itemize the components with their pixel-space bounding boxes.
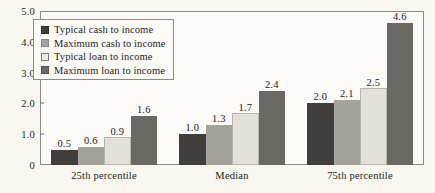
legend-swatch-icon	[41, 66, 49, 74]
bar: 0.9	[104, 137, 131, 165]
y-axis-tick-mark	[40, 103, 44, 104]
bar-value-label: 2.4	[265, 79, 279, 90]
bar-chart-figure: 01.02.03.04.05.0 0.50.60.91.61.01.31.72.…	[0, 0, 435, 193]
bar: 1.0	[179, 134, 206, 165]
bar-value-label: 2.1	[340, 88, 354, 99]
legend-item: Maximum cash to income	[41, 37, 173, 51]
category-axis-label: 75th percentile	[327, 170, 393, 181]
legend-label: Typical loan to income	[54, 51, 153, 62]
bar-value-label: 1.3	[212, 113, 226, 124]
legend-item: Maximum loan to income	[41, 64, 173, 78]
category-axis-label: 25th percentile	[71, 170, 137, 181]
y-axis-tick-mark	[40, 134, 44, 135]
y-axis-tick-label: 0	[30, 160, 35, 171]
y-axis-tick-label: 5.0	[21, 6, 35, 17]
bar: 4.6	[387, 23, 414, 165]
legend-label: Maximum loan to income	[54, 65, 165, 76]
bar-value-label: 4.6	[393, 11, 407, 22]
chart-legend: Typical cash to incomeMaximum cash to in…	[33, 19, 174, 80]
bar-value-label: 0.9	[110, 126, 124, 137]
bar-value-label: 0.6	[84, 135, 98, 146]
legend-item: Typical loan to income	[41, 50, 173, 64]
bar: 0.5	[51, 150, 78, 165]
legend-item: Typical cash to income	[41, 23, 173, 37]
bar: 1.7	[232, 113, 259, 165]
bar-value-label: 1.6	[137, 104, 151, 115]
bar-value-label: 2.0	[313, 91, 327, 102]
legend-label: Maximum cash to income	[54, 38, 166, 49]
bar: 1.6	[131, 116, 158, 165]
bar: 2.0	[307, 103, 334, 165]
bar-value-label: 0.5	[57, 138, 71, 149]
category-axis-label: Median	[215, 170, 248, 181]
bar: 2.4	[259, 91, 286, 165]
bar-value-label: 1.7	[238, 102, 252, 113]
y-axis-tick-label: 1.0	[21, 129, 35, 140]
legend-swatch-icon	[41, 26, 49, 34]
bar: 0.6	[78, 147, 105, 165]
bar-value-label: 2.5	[366, 77, 380, 88]
bar-value-label: 1.0	[185, 122, 199, 133]
legend-swatch-icon	[41, 53, 49, 61]
bar: 2.1	[334, 100, 361, 165]
legend-label: Typical cash to income	[54, 24, 153, 35]
bar: 2.5	[360, 88, 387, 165]
y-axis-tick-label: 2.0	[21, 98, 35, 109]
bar: 1.3	[206, 125, 233, 165]
legend-swatch-icon	[41, 39, 49, 47]
